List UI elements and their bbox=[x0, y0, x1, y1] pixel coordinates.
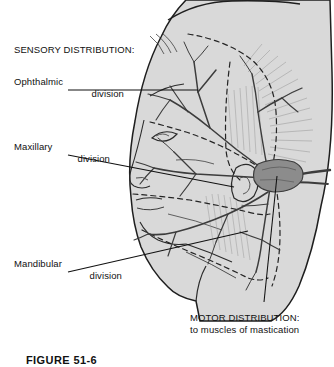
sensory-distribution-heading: SENSORY DISTRIBUTION: bbox=[14, 44, 135, 56]
motor-distribution-label-line1: MOTOR DISTRIBUTION: bbox=[190, 312, 299, 324]
figure-caption: FIGURE 51-6 bbox=[26, 354, 97, 366]
maxillary-division-label-line1: Maxillary bbox=[14, 141, 52, 153]
figure-trigeminal-nerve-distribution: SENSORY DISTRIBUTION: Ophthalmic divisio… bbox=[0, 0, 334, 367]
head-silhouette bbox=[130, 0, 333, 321]
motor-distribution-label-line2: to muscles of mastication bbox=[190, 324, 299, 336]
trigeminal-ganglion bbox=[254, 159, 304, 192]
mandibular-division-label-line2: division bbox=[14, 270, 122, 282]
ophthalmic-division-label-line1: Ophthalmic bbox=[14, 76, 63, 88]
ophthalmic-division-label-line2: division bbox=[14, 88, 124, 100]
maxillary-division-label-line2: division bbox=[14, 153, 110, 165]
mandibular-division-label-line1: Mandibular bbox=[14, 258, 62, 270]
